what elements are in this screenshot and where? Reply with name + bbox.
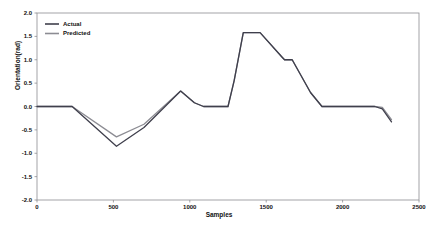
x-tick-label: 500 (98, 204, 128, 210)
y-tick-label: -2.0 (10, 197, 32, 203)
x-tick-label: 1000 (175, 204, 205, 210)
y-tick-label: 2.0 (10, 10, 32, 16)
y-axis-title: Orientation(rad) (14, 26, 21, 106)
x-tick-label: 0 (22, 204, 52, 210)
legend-label-predicted: Predicted (63, 30, 90, 36)
x-tick-label: 2000 (328, 204, 358, 210)
x-tick-label: 1500 (251, 204, 281, 210)
x-axis-title: Samples (0, 211, 438, 218)
x-tick-label: 2500 (404, 204, 434, 210)
chart-figure: 2.01.51.00.50.0-0.5-1.0-1.5-2.0 05001000… (0, 0, 438, 232)
legend-label-actual: Actual (63, 21, 81, 27)
y-tick-label: -0.5 (10, 127, 32, 133)
y-tick-label: -1.0 (10, 150, 32, 156)
y-tick-label: -1.5 (10, 174, 32, 180)
